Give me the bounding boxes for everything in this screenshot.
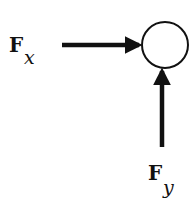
force-y-label-main: F (148, 161, 162, 185)
force-diagram: F x F y (0, 0, 194, 208)
force-x-label-main: F (9, 33, 23, 57)
body-circle (142, 22, 188, 68)
force-x-label-sub: x (24, 46, 35, 68)
force-y-label-sub: y (162, 176, 174, 198)
